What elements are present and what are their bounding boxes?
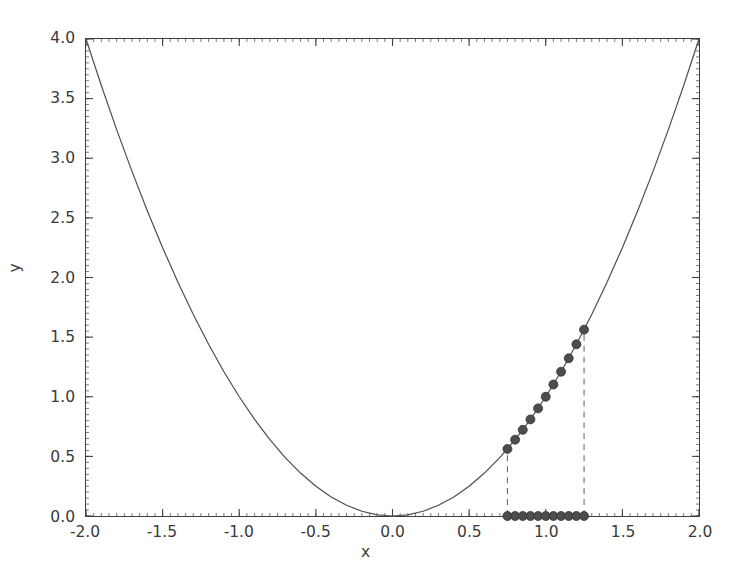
y-tick-label: 1.5 [20, 328, 75, 346]
y-axis-title: y [6, 263, 24, 272]
x-tick-label: -1.0 [224, 523, 254, 541]
y-tick-label: 4.0 [20, 29, 75, 47]
x-tick-label: 1.5 [611, 523, 636, 541]
x-tick-label: 0.5 [457, 523, 482, 541]
y-tick-label: 3.0 [20, 149, 75, 167]
x-tick-label: 1.0 [534, 523, 559, 541]
x-axis-title: x [0, 543, 731, 561]
minor-tick-group [86, 39, 699, 516]
data-point-marker [541, 392, 550, 401]
data-point-marker [564, 354, 573, 363]
x-tick-label: -2.0 [70, 523, 100, 541]
y-tick-label: 0.5 [20, 448, 75, 466]
plot-axes-area [85, 38, 700, 517]
data-point-marker [526, 415, 535, 424]
y-tick-label: 2.5 [20, 209, 75, 227]
data-point-marker [557, 367, 566, 376]
y-tick-label: 3.5 [20, 89, 75, 107]
data-point-marker [534, 404, 543, 413]
y-tick-label: 1.0 [20, 388, 75, 406]
figure-canvas: 0.00.51.01.52.02.53.03.54.0 -2.0-1.5-1.0… [0, 0, 731, 579]
marker-group [503, 325, 589, 520]
x-tick-label: -1.5 [147, 523, 177, 541]
y-tick-label: 2.0 [20, 269, 75, 287]
data-point-marker [580, 512, 589, 521]
data-point-marker [549, 380, 558, 389]
data-point-marker [511, 435, 520, 444]
x-tick-label: 2.0 [688, 523, 713, 541]
curve-group [86, 39, 699, 516]
data-point-marker [503, 444, 512, 453]
data-point-marker [572, 340, 581, 349]
data-point-marker [580, 325, 589, 334]
x-tick-label: -0.5 [301, 523, 331, 541]
curve-series-0 [86, 39, 699, 516]
data-point-marker [518, 425, 527, 434]
major-tick-group [86, 39, 699, 516]
x-tick-label: 0.0 [380, 523, 405, 541]
y-tick-label: 0.0 [20, 508, 75, 526]
chart-svg [86, 39, 699, 516]
